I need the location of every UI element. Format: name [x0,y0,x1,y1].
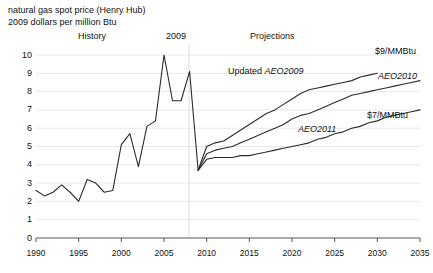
y-axis-tick-label: 1 [18,215,32,224]
x-axis-tick-label: 2020 [275,249,309,258]
y-axis-tick-label: 5 [18,142,32,151]
x-axis-tick-label: 2010 [190,249,224,258]
y-axis-tick-label: 8 [18,87,32,96]
x-axis-tick-marks [36,238,420,242]
y-axis-tick-label: 2 [18,197,32,206]
natural-gas-price-chart: natural gas spot price (Henry Hub) 2009 … [0,0,433,273]
endpoint-label-high: $9/MMBtu [375,46,416,56]
chart-canvas [0,0,433,273]
y-axis-tick-label: 9 [18,69,32,78]
y-axis-tick-label: 7 [18,105,32,114]
x-axis-tick-label: 2030 [360,249,394,258]
y-axis-tick-label: 10 [18,51,32,60]
x-axis-tick-label: 2005 [147,249,181,258]
x-axis-tick-label: 2035 [403,249,433,258]
series-label-aeo2010: AEO2010 [378,71,417,81]
y-axis-tick-label: 6 [18,124,32,133]
x-axis-tick-label: 1990 [19,249,53,258]
x-axis-tick-label: 2000 [104,249,138,258]
series-label-updated-aeo2009: Updated AEO2009 [228,66,304,76]
series-label-name: AEO2009 [265,66,304,76]
x-axis-tick-label: 1995 [62,249,96,258]
annotation-divider-year: 2009 [166,31,186,41]
annotation-history: History [78,31,106,41]
series-label-aeo2011: AEO2011 [298,124,336,134]
axes [36,238,420,242]
y-axis-tick-label: 0 [18,234,32,243]
endpoint-label-low: $7/MMBtu [367,110,408,120]
x-axis-tick-label: 2025 [318,249,352,258]
y-axis-tick-label: 4 [18,160,32,169]
annotation-projections: Projections [250,31,295,41]
x-axis-tick-label: 2015 [232,249,266,258]
gridlines [36,55,420,220]
y-axis-tick-label: 3 [18,179,32,188]
series-label-prefix: Updated [228,66,265,76]
